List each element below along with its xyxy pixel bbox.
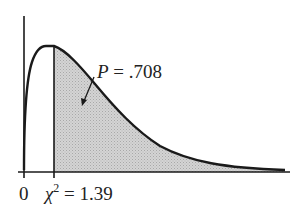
chi-square-chart: P = .708 0 χ2 = 1.39 <box>0 0 301 216</box>
x-tick-chi-square: χ2 = 1.39 <box>43 181 113 204</box>
p-value-annotation: P = .708 <box>96 61 162 82</box>
shaded-tail-area <box>54 46 285 172</box>
x-tick-zero: 0 <box>19 183 29 204</box>
